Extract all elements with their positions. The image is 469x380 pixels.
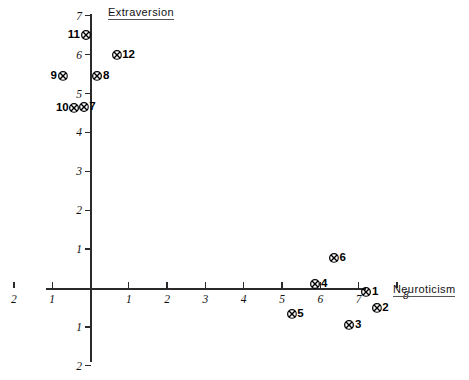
y-tick-mark — [85, 54, 91, 55]
circled-x-marker-icon — [92, 71, 102, 81]
x-tick-mark — [243, 282, 244, 288]
y-tick-label: 6 — [66, 49, 82, 61]
x-tick-label: 2 — [164, 293, 170, 305]
x-tick-label: 5 — [279, 293, 285, 305]
x-tick-mark — [13, 282, 14, 288]
y-tick-mark — [85, 171, 91, 172]
y-tick-label: 3 — [66, 165, 82, 177]
data-point: 4 — [310, 279, 320, 289]
circled-x-marker-icon — [57, 71, 67, 81]
x-tick-label: 6 — [317, 293, 323, 305]
x-tick-label: 4 — [241, 293, 247, 305]
x-tick-label: 1 — [49, 293, 55, 305]
data-point: 1 — [361, 287, 371, 297]
data-point: 9 — [57, 71, 67, 81]
x-tick-label: 3 — [203, 293, 209, 305]
data-point: 3 — [344, 320, 354, 330]
data-point: 7 — [78, 102, 88, 112]
circled-x-marker-icon — [111, 50, 121, 60]
y-tick-mark — [85, 365, 91, 366]
x-tick-mark — [128, 282, 129, 288]
data-point-label: 10 — [56, 102, 69, 114]
y-tick-label: 2 — [66, 204, 82, 216]
circled-x-marker-icon — [329, 253, 339, 263]
y-tick-label: 5 — [66, 88, 82, 100]
circled-x-marker-icon — [286, 309, 296, 319]
data-point: 10 — [69, 103, 79, 113]
data-point-label: 1 — [372, 286, 378, 298]
data-point-label: 6 — [339, 252, 345, 264]
circled-x-marker-icon — [80, 30, 90, 40]
circled-x-marker-icon — [344, 320, 354, 330]
x-tick-mark — [281, 282, 282, 288]
y-tick-label: 2 — [66, 360, 82, 372]
data-point: 8 — [92, 71, 102, 81]
y-tick-mark — [85, 326, 91, 327]
data-point-label: 8 — [103, 70, 109, 82]
scatter-plot-figure: 2112345678 765432112 Extraversion Neurot… — [0, 0, 469, 380]
data-point-label: 2 — [382, 302, 388, 314]
y-tick-mark — [85, 132, 91, 133]
y-axis-line — [90, 14, 92, 362]
data-point: 12 — [111, 50, 121, 60]
data-point-label: 5 — [297, 308, 303, 320]
x-tick-label: 1 — [126, 293, 132, 305]
x-axis-title: Neuroticism — [393, 283, 455, 297]
y-tick-label: 7 — [66, 10, 82, 22]
data-point: 5 — [286, 309, 296, 319]
x-tick-mark — [205, 282, 206, 288]
data-point-label: 9 — [50, 70, 56, 82]
data-point-label: 3 — [355, 319, 361, 331]
data-point: 2 — [371, 303, 381, 313]
y-tick-mark — [85, 93, 91, 94]
y-tick-mark — [85, 248, 91, 249]
circled-x-marker-icon — [69, 103, 79, 113]
circled-x-marker-icon — [310, 279, 320, 289]
x-tick-mark — [358, 282, 359, 288]
data-point: 11 — [80, 30, 90, 40]
y-tick-label: 1 — [66, 243, 82, 255]
x-tick-mark — [166, 282, 167, 288]
y-tick-label: 4 — [66, 126, 82, 138]
circled-x-marker-icon — [361, 287, 371, 297]
data-point: 6 — [329, 253, 339, 263]
data-point-label: 7 — [89, 101, 95, 113]
circled-x-marker-icon — [371, 303, 381, 313]
x-tick-label: 2 — [11, 293, 17, 305]
y-tick-mark — [85, 210, 91, 211]
y-tick-label: 1 — [66, 321, 82, 333]
circled-x-marker-icon — [78, 102, 88, 112]
x-tick-mark — [52, 282, 53, 288]
y-axis-title: Extraversion — [108, 6, 174, 20]
y-tick-mark — [85, 15, 91, 16]
data-point-label: 12 — [122, 49, 135, 61]
data-point-label: 4 — [321, 278, 327, 290]
data-point-label: 11 — [68, 29, 80, 41]
